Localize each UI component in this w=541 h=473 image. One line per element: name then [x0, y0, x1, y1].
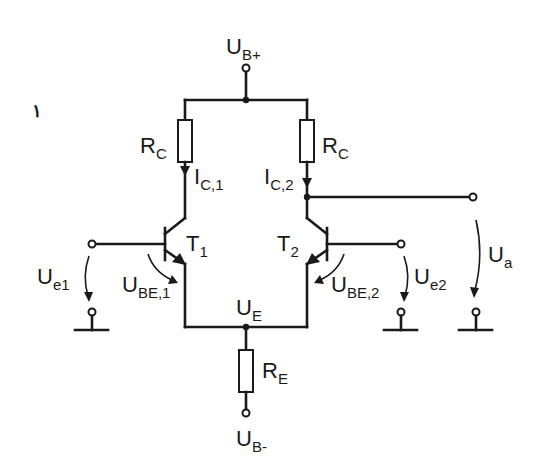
voltage-arrow-ube1: [148, 254, 178, 284]
terminal-input-2: [398, 241, 405, 248]
resistor-rc-left: [178, 120, 192, 162]
t2-collector: [307, 218, 327, 234]
label-ube1: UBE,1: [122, 272, 170, 301]
right-collector-branch: [300, 100, 477, 218]
label-rc-left: RC: [140, 133, 167, 162]
resistor-re: [239, 350, 253, 392]
transistor-t2: [306, 218, 405, 327]
stray-mark: ١: [32, 101, 42, 121]
ground-1: [75, 309, 108, 331]
ground-2: [384, 309, 417, 331]
voltage-arrow-ua: [470, 220, 480, 298]
label-ua: Ua: [488, 242, 513, 271]
terminal-ub-minus: [243, 410, 250, 417]
label-ue: UE: [236, 295, 262, 324]
label-ub-minus: UB-: [236, 426, 267, 455]
terminal-input-1: [89, 241, 96, 248]
ground-3: [459, 309, 492, 331]
label-ub-plus: UB+: [226, 34, 261, 63]
emitter-branch: [185, 324, 307, 417]
circuit-diagram: UB+ RC RC IC,1 IC,2 T1 T2 UBE,1 UBE,2 UE…: [0, 0, 541, 473]
voltage-arrow-ue2: [400, 256, 409, 302]
supply-positive-node: [185, 65, 307, 104]
label-ue2: Ue2: [414, 264, 447, 293]
current-arrow-ic2: [302, 178, 312, 188]
label-ic1: IC,1: [194, 164, 223, 193]
current-arrow-ic1: [180, 166, 190, 176]
resistor-rc-right: [300, 120, 314, 162]
label-t1: T1: [186, 231, 208, 260]
label-ic2: IC,2: [264, 164, 293, 193]
voltage-arrow-ue1: [84, 256, 93, 302]
label-ue1: Ue1: [37, 264, 70, 293]
t1-collector: [165, 218, 185, 234]
junction-dot: [243, 97, 249, 103]
terminal-ub-plus: [243, 65, 250, 72]
left-collector-branch: [178, 100, 192, 218]
label-re: RE: [262, 358, 288, 387]
label-t2: T2: [277, 231, 299, 260]
label-rc-right: RC: [322, 133, 349, 162]
label-ube2: UBE,2: [331, 272, 379, 301]
terminal-output: [470, 194, 477, 201]
